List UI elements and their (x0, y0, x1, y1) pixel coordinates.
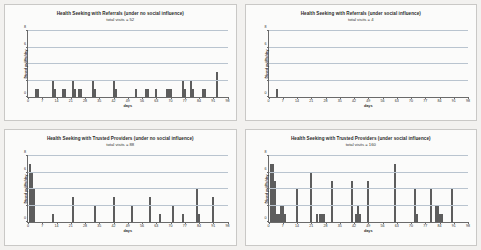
gridline (28, 172, 228, 173)
x-axis-tick-label: 49 (126, 99, 130, 103)
x-axis-tick-label: 70 (409, 224, 413, 228)
x-axis-tick-label: 35 (338, 99, 342, 103)
x-axis-tick-label: 63 (154, 99, 158, 103)
x-axis-tick-label: 77 (423, 224, 427, 228)
x-axis-tick-mark (128, 222, 129, 224)
x-axis-tick-label: 14 (55, 224, 59, 228)
x-axis-tick-label: 35 (97, 224, 101, 228)
bar-series (269, 156, 469, 222)
x-axis-tick-mark (42, 222, 43, 224)
x-axis-tick-mark (297, 222, 298, 224)
x-axis-tick-label: 21 (69, 224, 73, 228)
x-axis-tick-label: 14 (295, 224, 299, 228)
panel-top-left: Health Seeking with Referrals (under no … (0, 0, 241, 125)
x-axis-tick-label: 63 (395, 99, 399, 103)
x-axis-tick-mark (156, 222, 157, 224)
y-axis-tick-label: 4 (265, 58, 267, 62)
x-axis-tick-label: 28 (83, 224, 87, 228)
bar (367, 181, 369, 222)
x-axis-tick-label: 56 (140, 99, 144, 103)
x-axis-tick-mark (283, 222, 284, 224)
y-axis-tick-mark (267, 47, 269, 48)
x-axis-tick-label: 84 (438, 99, 442, 103)
x-axis-tick-mark (340, 97, 341, 99)
x-axis-tick-label: 0 (27, 99, 29, 103)
bar (37, 89, 39, 97)
x-axis-tick-mark (199, 222, 200, 224)
x-axis-tick-mark (114, 222, 115, 224)
x-axis-tick-label: 56 (381, 224, 385, 228)
x-axis-tick-mark (468, 97, 469, 99)
gridline (28, 80, 228, 81)
x-axis-tick-mark (114, 97, 115, 99)
plot-axes: Dosed public/day days 024680714212835424… (268, 31, 469, 98)
x-axis-tick-label: 21 (69, 99, 73, 103)
bar (170, 89, 172, 97)
x-axis-tick-label: 70 (169, 224, 173, 228)
y-axis-tick-mark (267, 188, 269, 189)
plot-area: Dosed public/day days 024680714212835424… (268, 31, 469, 98)
x-axis-tick-label: 21 (309, 224, 313, 228)
x-axis-tick-label: 70 (409, 99, 413, 103)
x-axis-tick-label: 7 (282, 224, 284, 228)
plot-axes: Dosed public/day days 024680714212835424… (268, 156, 469, 223)
x-axis-tick-mark (454, 97, 455, 99)
x-axis-tick-mark (340, 222, 341, 224)
x-axis-tick-label: 14 (295, 99, 299, 103)
y-axis-tick-label: 2 (265, 75, 267, 79)
y-axis-tick-mark (267, 155, 269, 156)
bar (182, 214, 184, 222)
bar (94, 89, 96, 97)
bar (441, 214, 443, 222)
x-axis-tick-mark (71, 97, 72, 99)
y-axis-tick-mark (267, 63, 269, 64)
bar (359, 214, 361, 222)
x-axis-tick-mark (468, 222, 469, 224)
bar (115, 89, 117, 97)
chart-subtitle: total visits = 88 (5, 142, 236, 148)
bar (74, 89, 76, 97)
bar (33, 189, 35, 222)
y-axis-tick-mark (26, 30, 28, 31)
y-axis-tick-label: 4 (265, 183, 267, 187)
panel-bottom-right: Health Seeking with Trusted Providers (u… (241, 125, 481, 250)
y-axis-tick-mark (267, 172, 269, 173)
gridline (269, 205, 469, 206)
y-axis-tick-mark (26, 155, 28, 156)
x-axis-tick-label: 42 (352, 224, 356, 228)
x-axis-tick-mark (142, 97, 143, 99)
x-axis-tick-label: 84 (438, 224, 442, 228)
x-axis-tick-label: 42 (112, 99, 116, 103)
chart-card-referrals-no-influence: Health Seeking with Referrals (under no … (4, 4, 237, 121)
chart-subtitle: total visits = 52 (5, 17, 236, 23)
bar (72, 197, 74, 222)
x-axis-tick-label: 91 (211, 99, 215, 103)
x-axis-tick-label: 49 (126, 224, 130, 228)
gridline (28, 188, 228, 189)
bar (212, 197, 214, 222)
y-axis-tick-mark (26, 80, 28, 81)
x-axis-tick-label: 28 (83, 99, 87, 103)
x-axis-tick-mark (156, 97, 157, 99)
y-axis-tick-label: 2 (265, 200, 267, 204)
y-axis-tick-mark (26, 188, 28, 189)
bar (131, 206, 133, 223)
y-axis-tick-label: 2 (24, 75, 26, 79)
y-axis-tick-label: 8 (24, 150, 26, 154)
bar (296, 189, 298, 222)
bar (80, 89, 82, 97)
x-axis-label: days (364, 104, 373, 108)
x-axis-tick-mark (411, 222, 412, 224)
x-axis-tick-mark (85, 222, 86, 224)
bar (147, 89, 149, 97)
y-axis-tick-label: 2 (24, 200, 26, 204)
x-axis-label: days (123, 229, 132, 233)
gridline (269, 172, 469, 173)
x-axis-tick-mark (28, 97, 29, 99)
panel-bottom-left: Health Seeking with Trusted Providers (u… (0, 125, 241, 250)
x-axis-tick-label: 84 (197, 224, 201, 228)
y-axis-tick-label: 8 (24, 25, 26, 29)
bar-series (269, 31, 469, 97)
gridline (28, 47, 228, 48)
y-axis-tick-label: 0 (265, 216, 267, 220)
